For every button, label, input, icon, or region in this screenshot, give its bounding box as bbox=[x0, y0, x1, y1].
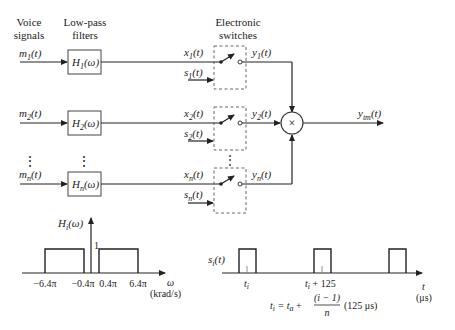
xn-label: xn(t) bbox=[183, 168, 204, 183]
tick-ti: ti bbox=[244, 278, 249, 291]
tdm-diagram: Voice signals Low-pass filters Electroni… bbox=[0, 0, 455, 330]
channel-2: m2(t) H2(ω) x2(t) s2(t) y2(t) bbox=[19, 107, 280, 150]
svg-text:(krad/s): (krad/s) bbox=[150, 288, 181, 300]
tick-ti-plus-125: ti + 125 bbox=[305, 278, 336, 291]
svg-text:Low-pass: Low-pass bbox=[64, 16, 107, 28]
y1-label: y1(t) bbox=[251, 46, 272, 61]
sn-label: sn(t) bbox=[184, 188, 203, 203]
ellipsis-switches: ⋮ bbox=[224, 153, 236, 167]
channel-n: mn(t) Hn(ω) xn(t) sn(t) yn(t) bbox=[19, 135, 292, 213]
yn-label: yn(t) bbox=[251, 168, 272, 183]
switch-n-box bbox=[214, 168, 246, 213]
x1-label: x1(t) bbox=[183, 46, 204, 61]
x2-label: x2(t) bbox=[183, 107, 204, 122]
svg-text:−6.4π: −6.4π bbox=[33, 278, 56, 289]
s2-label: s2(t) bbox=[184, 127, 203, 142]
ti-formula: ti = ta + (i − 1) n (125 μs) bbox=[270, 292, 377, 318]
svg-text:Electronic: Electronic bbox=[215, 16, 260, 28]
svg-text:−0.4π: −0.4π bbox=[71, 278, 94, 289]
svg-text:switches: switches bbox=[219, 29, 257, 41]
combiner-node: × bbox=[281, 112, 303, 134]
svg-text:ti = ta +: ti = ta + bbox=[270, 300, 302, 313]
header-low-pass-filters: Low-pass filters bbox=[64, 16, 107, 41]
svg-text:×: × bbox=[289, 116, 296, 130]
header-voice-signals: Voice signals bbox=[14, 16, 45, 41]
svg-text:(μs): (μs) bbox=[416, 292, 432, 304]
svg-text:filters: filters bbox=[72, 29, 98, 41]
switch-1-box bbox=[214, 46, 246, 89]
sampling-pulse-plot: si(t) ti ti + 125 t (μs) ti = ta + (i − … bbox=[208, 249, 432, 318]
svg-text:n: n bbox=[325, 307, 330, 318]
svg-text:t: t bbox=[422, 281, 425, 292]
svg-text:signals: signals bbox=[14, 29, 45, 41]
s1-label: s1(t) bbox=[184, 66, 203, 81]
svg-text:(i − 1): (i − 1) bbox=[314, 292, 341, 304]
header-electronic-switches: Electronic switches bbox=[215, 16, 260, 41]
si-t-label: si(t) bbox=[208, 253, 225, 268]
svg-text:0.4π: 0.4π bbox=[99, 278, 117, 289]
ellipsis-filters: ⋮ bbox=[77, 154, 91, 169]
mn-label: mn(t) bbox=[19, 168, 42, 183]
output-label: ytm(t) bbox=[357, 107, 382, 122]
filter-response-plot: Hi(ω) 1 −6.4π −0.4π 0.4π 6.4π ω (krad/s) bbox=[22, 217, 181, 300]
hi-omega-label: Hi(ω) bbox=[57, 217, 84, 232]
channel-1: m1(t) H1(ω) x1(t) s1(t) y1(t) bbox=[19, 46, 292, 112]
svg-text:ω: ω bbox=[167, 277, 174, 288]
ellipsis-signals: ⋮ bbox=[23, 154, 37, 169]
svg-text:(125 μs): (125 μs) bbox=[344, 300, 377, 312]
switch-2-box bbox=[214, 107, 246, 150]
m1-label: m1(t) bbox=[19, 47, 42, 62]
svg-text:1: 1 bbox=[94, 240, 99, 251]
y2-label: y2(t) bbox=[251, 107, 272, 122]
svg-text:Voice: Voice bbox=[17, 16, 42, 28]
svg-text:6.4π: 6.4π bbox=[129, 278, 147, 289]
m2-label: m2(t) bbox=[19, 107, 42, 122]
